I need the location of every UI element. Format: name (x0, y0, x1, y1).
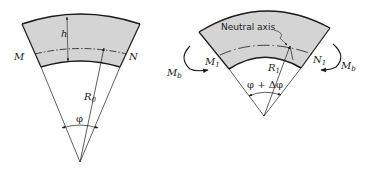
left-figure-unbent-segment: h R0 φ M N (13, 14, 140, 162)
curved-beam-diagram: h R0 φ M N Neutral axis R1 φ + Δφ (0, 0, 370, 169)
right-figure-bent-segment: Neutral axis R1 φ + Δφ M1 N1 Mb Mb (166, 11, 356, 116)
m1-label: M1 (204, 56, 220, 69)
left-radial-line (229, 69, 264, 116)
r1-label: R1 (267, 62, 280, 75)
neutral-axis-label: Neutral axis (221, 22, 275, 32)
m-label: M (13, 51, 25, 62)
radius-r0-arrow (80, 48, 104, 162)
right-moment-label: Mb (340, 60, 356, 73)
n-label: N (128, 51, 139, 62)
phi-label: φ (76, 113, 83, 124)
right-radial-line (80, 67, 120, 162)
h-label: h (61, 28, 67, 39)
n1-label: N1 (312, 54, 326, 67)
right-radial-line (264, 68, 301, 116)
left-radial-line (41, 67, 80, 162)
phi-angle-arc (62, 125, 98, 128)
beam-body (22, 14, 140, 67)
phi-delta-phi-angle-arc (249, 92, 281, 96)
phi-delta-phi-label: φ + Δφ (247, 79, 283, 90)
left-moment-label: Mb (166, 67, 182, 80)
